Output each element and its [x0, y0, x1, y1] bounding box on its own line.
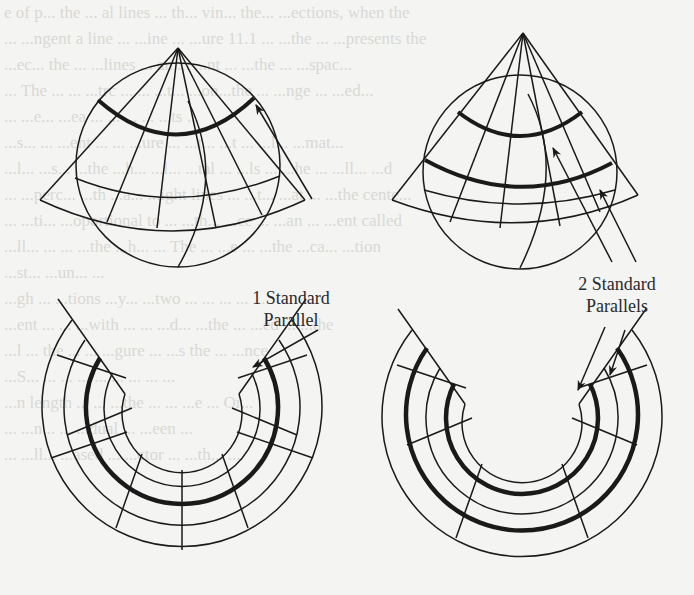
central-meridian — [178, 101, 206, 267]
cone-one-parallel — [40, 48, 312, 267]
cone-base-arc — [40, 200, 305, 231]
pointer-arrow-outer — [610, 330, 625, 375]
cone-side-left — [40, 48, 178, 200]
label-line: 2 Standard — [562, 273, 672, 295]
label-line: Parallels — [562, 295, 672, 317]
globe-outline — [76, 63, 280, 267]
central-meridian — [520, 94, 546, 268]
standard-parallel-upper — [458, 112, 582, 136]
label-two-standard-parallels: 2 Standard Parallels — [562, 273, 672, 317]
label-line: 1 Standard — [236, 287, 346, 309]
pointer-arrow-upper — [553, 148, 612, 262]
standard-parallel-outer — [406, 348, 638, 531]
cone-two-parallels — [392, 33, 638, 269]
label-line: Parallel — [236, 309, 346, 331]
standard-parallel-inner — [446, 384, 598, 494]
label-one-standard-parallel: 1 Standard Parallel — [236, 287, 346, 331]
cone-base-arc — [392, 195, 638, 223]
pointer-arrow-lower — [600, 190, 636, 262]
flat-one-parallel — [42, 299, 322, 550]
